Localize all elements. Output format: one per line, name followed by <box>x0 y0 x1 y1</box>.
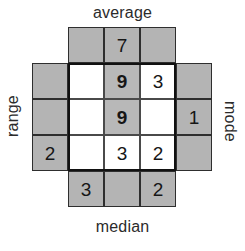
arm-cell-top-0 <box>68 27 104 63</box>
arm-value-bottom-0: 3 <box>81 180 92 199</box>
inner-cell-r1c2 <box>140 99 176 135</box>
inner-cell-r2c1: 3 <box>104 135 140 171</box>
inner-value-r1c1: 9 <box>117 108 128 127</box>
arm-cell-left-1 <box>32 99 68 135</box>
arm-cell-left-2: 2 <box>32 135 68 171</box>
arm-value-bottom-2: 2 <box>153 180 164 199</box>
arm-value-top-1: 7 <box>117 36 128 55</box>
number-puzzle-figure: average median range mode 7 2 1 <box>0 0 245 251</box>
inner-value-r0c1: 9 <box>117 72 128 91</box>
label-median: median <box>0 218 245 236</box>
arm-cell-bottom-2: 2 <box>140 171 176 207</box>
label-mode: mode <box>221 101 239 142</box>
arm-cell-bottom-1 <box>104 171 140 207</box>
arm-cell-right-0 <box>176 63 212 99</box>
arm-cell-left-0 <box>32 63 68 99</box>
inner-cell-r0c1: 9 <box>104 63 140 99</box>
arm-cell-right-1: 1 <box>176 99 212 135</box>
inner-value-r2c1: 3 <box>117 144 128 163</box>
arm-cell-top-2 <box>140 27 176 63</box>
arm-cell-top-1: 7 <box>104 27 140 63</box>
inner-value-r2c2: 2 <box>153 144 164 163</box>
label-average: average <box>0 4 245 22</box>
arm-cell-bottom-0: 3 <box>68 171 104 207</box>
inner-cell-r2c0 <box>68 135 104 171</box>
arm-value-left-2: 2 <box>45 144 56 163</box>
puzzle-grid: 7 2 1 3 2 <box>32 27 212 207</box>
inner-cell-r1c1: 9 <box>104 99 140 135</box>
inner-value-r0c2: 3 <box>153 72 164 91</box>
inner-cell-r2c2: 2 <box>140 135 176 171</box>
arm-value-right-1: 1 <box>189 108 200 127</box>
inner-cell-r0c2: 3 <box>140 63 176 99</box>
inner-cell-r1c0 <box>68 99 104 135</box>
arm-cell-right-2 <box>176 135 212 171</box>
inner-cell-r0c0 <box>68 63 104 99</box>
label-range: range <box>4 95 22 137</box>
